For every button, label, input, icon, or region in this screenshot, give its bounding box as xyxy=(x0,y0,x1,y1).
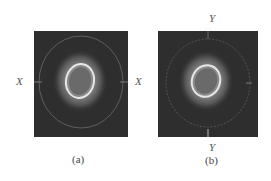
x-axis-label-left: X xyxy=(16,76,23,87)
panel-a-image xyxy=(34,31,128,137)
panel-b-image xyxy=(158,31,258,137)
y-axis-label-top: Y xyxy=(209,13,215,24)
ring-pattern-a xyxy=(34,31,128,137)
caption-b: (b) xyxy=(205,155,218,166)
caption-a: (a) xyxy=(72,154,84,165)
y-axis-label-bottom: Y xyxy=(209,142,215,153)
x-axis-label-middle: X xyxy=(135,76,142,87)
ring-pattern-b xyxy=(158,31,258,137)
